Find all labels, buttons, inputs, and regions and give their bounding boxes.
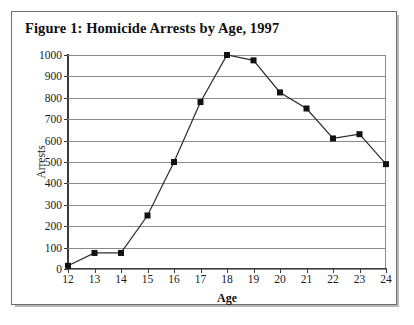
y-tick-label: 600 [45,135,62,147]
x-tick-label: 12 [62,273,74,285]
x-tick-label: 19 [248,273,260,285]
data-point-marker [65,263,71,269]
data-point-marker [251,57,257,63]
y-axis-title: Arrests [35,145,47,178]
data-point-marker [304,106,310,112]
x-tick-label: 20 [274,273,286,285]
x-tick-label: 21 [301,273,313,285]
y-tick-label: 900 [45,70,62,82]
data-point-marker [277,89,283,95]
clipped-header-text [0,0,414,4]
data-point-marker [224,52,230,58]
y-tick-label: 700 [45,113,62,125]
data-point-marker [171,159,177,165]
data-point-marker [357,131,363,137]
plot-area: 01002003004005006007008009001000 1213141… [68,55,386,269]
data-point-marker [383,161,389,167]
y-tick-label: 0 [56,263,62,275]
x-axis-title: Age [217,291,237,306]
x-tick-label: 15 [142,273,154,285]
y-tick-label: 200 [45,220,62,232]
data-point-marker [198,99,204,105]
y-tick-label: 500 [45,156,62,168]
y-tick-label: 100 [45,242,62,254]
x-tick-label: 13 [89,273,101,285]
y-tick-label: 300 [45,199,62,211]
data-point-marker [330,135,336,141]
figure-title: Figure 1: Homicide Arrests by Age, 1997 [25,20,279,37]
series-line [68,55,386,266]
y-tick-label: 800 [45,92,62,104]
y-tick-label: 400 [45,177,62,189]
x-tick-label: 14 [115,273,127,285]
x-tick-label: 17 [195,273,207,285]
data-point-marker [145,213,151,219]
data-series-homicide-arrests [68,55,386,269]
data-point-marker [92,250,98,256]
data-point-marker [118,250,124,256]
x-tick-label: 22 [327,273,339,285]
figure-container: Figure 1: Homicide Arrests by Age, 1997 … [11,11,397,305]
x-tick-label: 23 [354,273,366,285]
x-tick-label: 18 [221,273,233,285]
y-tick-label: 1000 [39,49,62,61]
x-tick-label: 24 [380,273,392,285]
x-tick-label: 16 [168,273,180,285]
